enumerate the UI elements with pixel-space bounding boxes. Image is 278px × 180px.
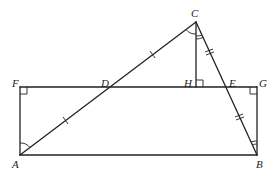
point-label-a: A	[12, 159, 19, 170]
point-label-g: G	[259, 78, 267, 89]
angle-arc-b-2-icon	[253, 144, 258, 145]
point-label-c: C	[191, 8, 198, 19]
angle-arc-b-1-icon	[251, 141, 257, 142]
point-label-f: F	[12, 78, 19, 89]
tick-ad-icon	[63, 117, 68, 124]
geometry-diagram: C F D H E G A B	[0, 0, 278, 180]
angle-arc-c-right-2-icon	[196, 38, 203, 40]
right-angle-f-icon	[20, 87, 27, 94]
right-angle-h-icon	[196, 80, 203, 87]
point-label-e: E	[229, 78, 236, 89]
diagram-canvas	[0, 0, 278, 180]
segment-cb	[196, 22, 257, 155]
right-angle-g-icon	[250, 87, 257, 94]
angle-arc-c-left-icon	[186, 30, 196, 35]
point-label-b: B	[256, 159, 263, 170]
angle-arc-a-icon	[20, 143, 30, 148]
angle-arc-c-right-1-icon	[196, 35, 202, 36]
point-label-h: H	[184, 78, 192, 89]
point-label-d: D	[101, 78, 109, 89]
